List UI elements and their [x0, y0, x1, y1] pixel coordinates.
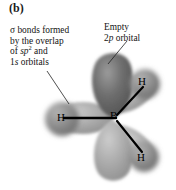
caption-text: orbitals [18, 57, 48, 67]
atom-label-hydrogen-left: H [57, 112, 65, 123]
leader-line-sigma [47, 71, 69, 104]
sigma-bond-caption: σ bonds formed by the overlap of sp2 and… [10, 25, 69, 67]
atom-label-hydrogen-upper-right: H [138, 76, 146, 87]
atom-label-boron: B [110, 110, 117, 121]
caption-text: of [10, 46, 20, 56]
empty-p-orbital-caption: Empty 2p orbital [104, 22, 140, 43]
caption-line: σ bonds formed [10, 25, 69, 36]
atom-label-hydrogen-lower-right: H [137, 152, 145, 163]
caption-line: by the overlap [10, 36, 69, 47]
figure-panel-b: (b) [0, 0, 176, 190]
caption-text: and [32, 46, 48, 56]
caption-line: Empty [104, 22, 140, 33]
caption-text: orbital [113, 33, 140, 43]
orbital-symbol: sp [20, 46, 28, 56]
caption-line: 1s orbitals [10, 57, 69, 68]
caption-line: of sp2 and [10, 46, 69, 57]
caption-line: 2p orbital [104, 33, 140, 44]
